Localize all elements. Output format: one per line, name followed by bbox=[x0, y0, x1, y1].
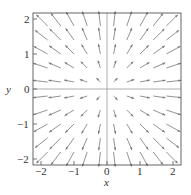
arrowhead-icon bbox=[33, 113, 36, 115]
vector-field-plot: −2−1012−2−1012 x y bbox=[0, 0, 191, 195]
x-tick-label: 2 bbox=[170, 165, 176, 177]
arrowhead-icon bbox=[80, 96, 83, 98]
y-tick-label: −1 bbox=[17, 118, 29, 130]
x-tick-label: −2 bbox=[35, 165, 47, 177]
y-tick-label: 1 bbox=[24, 48, 30, 60]
y-tick-label: −2 bbox=[17, 153, 29, 165]
arrowhead-icon bbox=[178, 113, 181, 115]
arrowhead-icon bbox=[80, 79, 83, 81]
x-tick-label: 1 bbox=[137, 165, 143, 177]
y-tick-label: 0 bbox=[24, 83, 30, 95]
x-tick-label: −1 bbox=[68, 165, 80, 177]
arrowhead-icon bbox=[114, 114, 116, 117]
arrowhead-icon bbox=[131, 79, 134, 81]
arrowhead-icon bbox=[33, 63, 36, 65]
arrowhead-icon bbox=[98, 114, 100, 117]
y-tick-label: 2 bbox=[24, 13, 30, 25]
arrowhead-icon bbox=[131, 96, 134, 98]
arrowhead-icon bbox=[178, 63, 181, 65]
y-axis-label: y bbox=[5, 83, 11, 95]
arrowhead-icon bbox=[98, 61, 100, 64]
x-axis-label: x bbox=[103, 176, 109, 188]
arrowhead-icon bbox=[114, 61, 116, 64]
axis-ticks: −2−1012−2−1012 bbox=[17, 13, 176, 177]
